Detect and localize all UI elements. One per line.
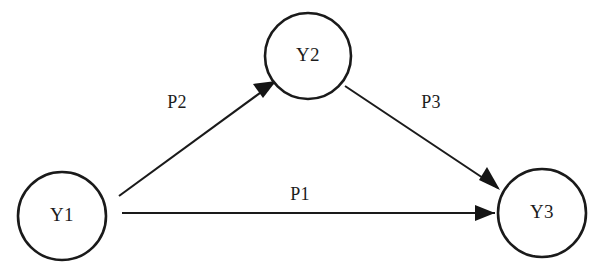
path-P2[interactable]: P2 <box>119 81 276 196</box>
node-Y3-label: Y3 <box>530 201 554 222</box>
path-P3-label: P3 <box>421 92 441 112</box>
node-Y2-label: Y2 <box>296 44 320 65</box>
path-P1-label: P1 <box>290 184 310 204</box>
node-Y2[interactable]: Y2 <box>265 13 351 99</box>
path-P1[interactable]: P1 <box>122 184 495 221</box>
path-P3[interactable]: P3 <box>345 86 500 190</box>
path-P3-arrowhead <box>479 167 500 190</box>
node-Y1-label: Y1 <box>50 204 74 225</box>
path-P2-label: P2 <box>167 92 187 112</box>
path-diagram: P1 P2 P3 Y1 Y2 Y3 <box>0 0 612 274</box>
node-Y3[interactable]: Y3 <box>498 169 586 257</box>
path-P1-arrowhead <box>475 205 495 221</box>
path-diagram-canvas: P1 P2 P3 Y1 Y2 Y3 <box>0 0 612 274</box>
path-P2-line <box>119 82 275 196</box>
node-Y1[interactable]: Y1 <box>18 172 106 260</box>
